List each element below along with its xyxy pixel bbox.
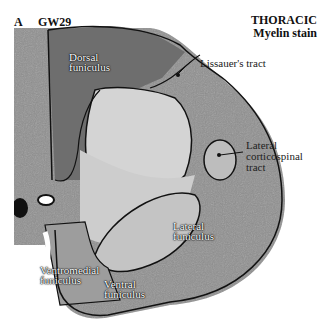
figure-title: THORACIC Myelin stain <box>251 14 317 40</box>
label-lateral-corticospinal: Lateral corticospinal tract <box>246 140 303 173</box>
panel-letter: A <box>14 15 23 30</box>
label-ventromedial-funiculus: Ventromedial funiculus <box>40 265 99 285</box>
label-ventral-funiculus: Ventral funiculus <box>104 279 145 299</box>
label-lissauers-tract: Lissauer's tract <box>200 58 266 69</box>
central-canal <box>38 195 54 205</box>
age-label: GW29 <box>38 15 71 30</box>
label-dorsal-funiculus: Dorsal funiculus <box>69 52 110 72</box>
title-line-2: Myelin stain <box>251 27 317 40</box>
label-lateral-funiculus: Lateral funiculus <box>173 221 214 241</box>
lateral-corticospinal-region <box>204 140 236 180</box>
